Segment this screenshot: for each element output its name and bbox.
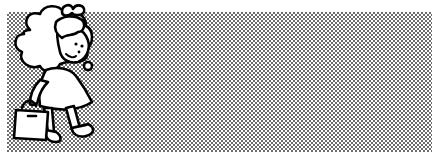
dress xyxy=(39,68,92,109)
cartoon-girl xyxy=(0,0,120,164)
shoe-right xyxy=(72,124,93,137)
handbag xyxy=(14,110,48,140)
earring xyxy=(84,62,92,70)
hair-bow xyxy=(62,5,84,15)
eye-icon xyxy=(74,42,77,45)
